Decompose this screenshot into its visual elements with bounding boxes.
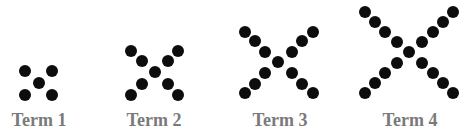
dot	[359, 6, 371, 18]
dot	[391, 57, 403, 69]
dot	[447, 6, 459, 18]
term-2-label: Term 2	[109, 110, 199, 131]
dot	[369, 16, 381, 28]
dot	[427, 67, 439, 79]
dot	[447, 87, 459, 99]
dot	[437, 77, 449, 89]
term-4-label: Term 4	[365, 110, 455, 131]
term-3-label: Term 3	[235, 110, 325, 131]
dot	[437, 16, 449, 28]
dot	[403, 46, 415, 58]
dot	[427, 26, 439, 38]
term-1-label: Term 1	[0, 110, 84, 131]
dot-pattern-figure: Term 1 Term 2 Term 3 Term 4	[0, 0, 464, 134]
dot	[391, 36, 403, 48]
dot	[359, 87, 371, 99]
dot	[416, 36, 428, 48]
dot	[379, 67, 391, 79]
dot	[416, 57, 428, 69]
dot	[379, 26, 391, 38]
dot	[369, 77, 381, 89]
